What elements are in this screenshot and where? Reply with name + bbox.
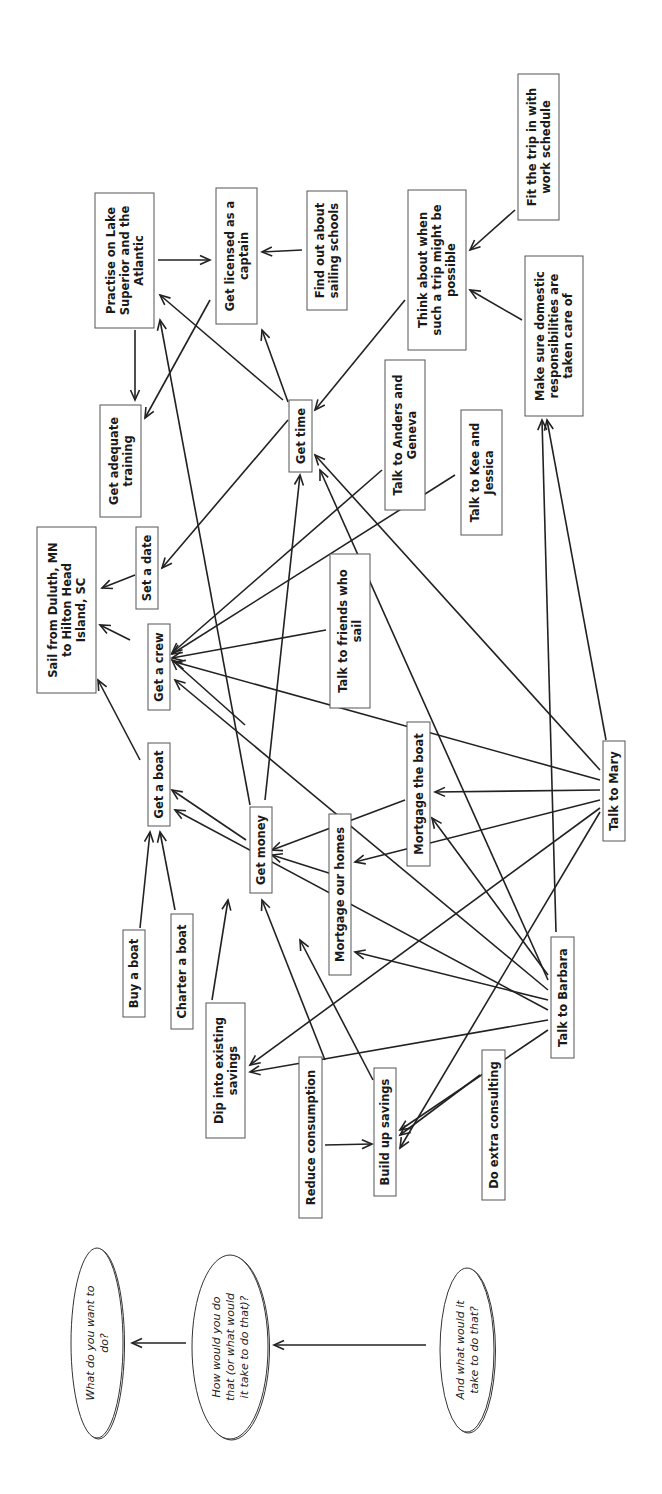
node-practise: Practise on LakeSuperior and theAtlantic bbox=[95, 193, 154, 328]
edge-arrow bbox=[320, 470, 548, 980]
arrowhead-icon bbox=[172, 790, 183, 799]
edge-arrow bbox=[100, 625, 130, 640]
ellipse-shape bbox=[440, 1268, 494, 1432]
edge-arrow bbox=[262, 900, 325, 1060]
edge-arrow bbox=[542, 420, 556, 932]
edge-arrow bbox=[400, 1075, 480, 1135]
edge-arrow bbox=[160, 832, 175, 910]
node-label: Buy a boat bbox=[127, 938, 141, 1008]
node-crew: Get a crew bbox=[148, 624, 170, 710]
node-time: Get time bbox=[289, 400, 312, 472]
legend-question-q2: How would you dothat (or what wouldit ta… bbox=[192, 1255, 270, 1440]
node-label: Get time bbox=[294, 408, 308, 464]
node-label: Do extra consulting bbox=[487, 1061, 501, 1188]
goal-tree-diagram: Sail from Duluth, MNto Hilton HeadIsland… bbox=[0, 0, 662, 1494]
node-training: Get adequatetraining bbox=[100, 405, 141, 517]
node-consult: Do extra consulting bbox=[482, 1050, 505, 1200]
node-licensed: Get licensed as acaptain bbox=[216, 188, 257, 324]
node-goal: Sail from Duluth, MNto Hilton HeadIsland… bbox=[37, 527, 96, 693]
node-mboat: Mortgage the boat bbox=[407, 722, 430, 866]
node-friends: Talk to friends whosail bbox=[330, 554, 370, 708]
edge-arrow bbox=[262, 250, 302, 252]
node-money: Get money bbox=[250, 807, 272, 893]
node-boat: Get a boat bbox=[148, 743, 170, 826]
edge-arrow bbox=[140, 832, 150, 928]
edge-arrow bbox=[547, 420, 606, 740]
node-label: Talk to Mary bbox=[607, 751, 621, 831]
edge-arrow bbox=[162, 420, 288, 568]
arrowhead-icon bbox=[400, 1137, 409, 1148]
legend-label: And what would ittake to do that? bbox=[454, 1300, 481, 1401]
node-date: Set a date bbox=[136, 527, 158, 609]
node-label: Talk to Barbara bbox=[556, 948, 570, 1047]
node-label: Reduce consumption bbox=[304, 1070, 318, 1205]
edge-arrow bbox=[435, 790, 600, 792]
edge-arrow bbox=[272, 855, 335, 875]
node-homes: Mortgage our homes bbox=[329, 814, 351, 975]
edge-arrow bbox=[212, 900, 228, 1000]
diagram-canvas: Sail from Duluth, MNto Hilton HeadIsland… bbox=[0, 0, 662, 1494]
edge-arrow bbox=[355, 952, 548, 1000]
edge-arrow bbox=[355, 800, 600, 862]
edge-arrow bbox=[470, 290, 522, 320]
nodes-layer: Sail from Duluth, MNto Hilton HeadIsland… bbox=[37, 74, 625, 1218]
node-barbara: Talk to Barbara bbox=[551, 937, 574, 1058]
node-think: Think about whensuch a trip might beposs… bbox=[408, 190, 466, 350]
node-mary: Talk to Mary bbox=[603, 741, 625, 841]
edge-arrow bbox=[265, 475, 300, 800]
edge-arrow bbox=[175, 662, 600, 780]
legend-label: How would you dothat (or what wouldit ta… bbox=[210, 1292, 251, 1401]
node-charter: Charter a boat bbox=[171, 914, 193, 1029]
node-reduce: Reduce consumption bbox=[299, 1057, 322, 1218]
node-dip: Dip into existingsavings bbox=[206, 1003, 245, 1138]
node-fit: Fit the trip in withwork schedule bbox=[518, 74, 559, 220]
node-label: Fit the trip in withwork schedule bbox=[525, 88, 553, 207]
edge-arrow bbox=[98, 680, 140, 760]
edge-arrow bbox=[145, 300, 210, 418]
legend-question-q1: What do you want todo? bbox=[71, 1248, 125, 1439]
node-kee: Talk to Kee andJessica bbox=[461, 410, 502, 535]
node-label: Mortgage the boat bbox=[412, 733, 426, 855]
node-schools: Find out aboutsailing schools bbox=[307, 191, 347, 310]
node-label: Set a date bbox=[140, 534, 154, 601]
node-build: Build up savings bbox=[374, 1068, 396, 1196]
node-label: Build up savings bbox=[378, 1078, 392, 1185]
node-anders: Talk to Anders andGeneva bbox=[385, 360, 425, 510]
edge-arrow bbox=[432, 818, 548, 975]
ellipse-shape bbox=[71, 1248, 123, 1438]
edge-arrow bbox=[175, 680, 548, 990]
node-label: Find out aboutsailing schools bbox=[313, 202, 341, 298]
node-label: Mortgage our homes bbox=[333, 827, 347, 962]
node-label: Get a crew bbox=[152, 632, 166, 702]
edge-arrow bbox=[325, 1144, 372, 1145]
edge-arrow bbox=[470, 210, 515, 250]
node-label: Get a boat bbox=[152, 750, 166, 818]
edge-arrow bbox=[160, 320, 250, 805]
legend-layer: What do you want todo?How would you doth… bbox=[71, 1248, 496, 1440]
node-label: Charter a boat bbox=[175, 924, 189, 1019]
edge-arrow bbox=[102, 575, 135, 588]
node-domestic: Make sure domesticresponsibilities areta… bbox=[525, 256, 583, 416]
node-buy: Buy a boat bbox=[123, 930, 145, 1017]
node-label: Get money bbox=[254, 814, 268, 885]
edge-arrow bbox=[262, 330, 288, 402]
edge-arrow bbox=[172, 630, 326, 658]
legend-question-q3: And what would ittake to do that? bbox=[440, 1268, 496, 1433]
